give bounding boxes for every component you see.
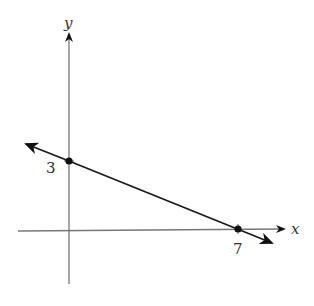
x-intercept-point [234, 225, 241, 232]
y-intercept-point [65, 157, 72, 164]
y-intercept-label: 3 [46, 159, 56, 177]
x-axis [18, 229, 284, 231]
x-intercept-label: 7 [233, 240, 243, 258]
coordinate-plane: y x 3 7 [0, 0, 314, 306]
y-axis-label: y [63, 14, 73, 32]
x-axis-label: x [291, 220, 300, 238]
